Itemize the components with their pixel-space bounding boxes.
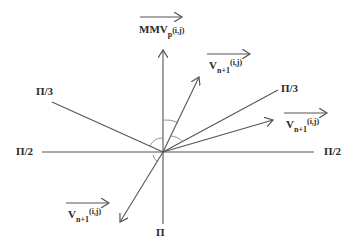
angle-arc-left [150, 138, 163, 146]
pi2-left-label: Π/2 [16, 146, 33, 157]
v-right-vector [163, 120, 273, 152]
angle-arc-upper [163, 120, 177, 122]
mmv-label: MMVp(i,j) [139, 24, 184, 35]
pi3-right-line [163, 90, 278, 152]
v-upper-label: Vn+1(i,j) [209, 60, 242, 71]
pi3-left-line [52, 102, 163, 152]
v-right-label: Vn+1(i,j) [286, 119, 319, 130]
v-lower-vector [120, 152, 163, 222]
angle-arc-right [170, 136, 183, 142]
v-lower-label: Vn+1(i,j) [68, 209, 101, 220]
pi3-left-label: Π/3 [36, 86, 53, 97]
pi3-right-label: Π/3 [281, 83, 298, 94]
pi2-right-label: Π/2 [324, 146, 341, 157]
v-upper-vector [163, 77, 199, 152]
pi-bottom-label: Π [156, 227, 165, 238]
